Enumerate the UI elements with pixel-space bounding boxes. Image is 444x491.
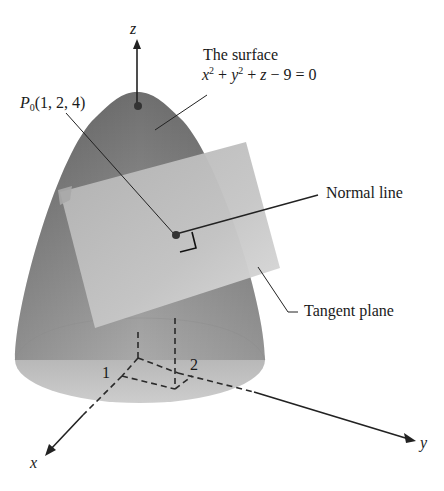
- eq-plus-1: +: [214, 66, 231, 83]
- y-axis-arrowhead: [404, 433, 416, 443]
- x-tick-label: 1: [102, 364, 110, 382]
- surface-title: The surface: [203, 46, 278, 64]
- normal-line-label: Normal line: [326, 184, 403, 202]
- y-axis: [254, 392, 412, 440]
- point-label: P0(1, 2, 4): [20, 94, 85, 112]
- z-axis-label: z: [130, 20, 136, 38]
- y-tick-label: 2: [190, 356, 198, 374]
- point-coords: (1, 2, 4): [35, 94, 86, 111]
- x-axis: [50, 415, 83, 450]
- apex-point: [134, 102, 142, 110]
- x-axis-label: x: [30, 454, 37, 472]
- tangent-plane-label: Tangent plane: [304, 302, 394, 320]
- eq-plus-2: +: [243, 66, 260, 83]
- point-p0: [172, 231, 180, 239]
- surface-equation: x2 + y2 + z − 9 = 0: [202, 66, 317, 84]
- z-axis-arrowhead: [133, 39, 141, 49]
- eq-rest: − 9 = 0: [267, 66, 317, 83]
- y-axis-label: y: [420, 434, 427, 452]
- plane-leader: [258, 267, 298, 312]
- point-name: P: [20, 94, 30, 111]
